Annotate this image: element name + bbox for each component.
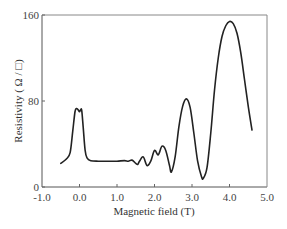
y-tick-label: 0 [34, 181, 40, 193]
y-tick-label: 80 [28, 95, 40, 107]
x-tick-label: 4.0 [223, 191, 237, 203]
x-tick-label: 1.0 [110, 191, 124, 203]
resistivity-curve [61, 21, 252, 179]
y-axis-label: Resistivity ( Ω / □) [12, 59, 25, 143]
x-tick-label: 2.0 [148, 191, 162, 203]
x-tick-label: 0.0 [73, 191, 87, 203]
chart: -1.00.01.02.03.04.05.0 080160 Magnetic f… [0, 0, 287, 229]
x-tick-label: 5.0 [260, 191, 274, 203]
plot-frame [42, 15, 267, 187]
y-tick-label: 160 [23, 9, 40, 21]
x-axis-label: Magnetic field (T) [113, 205, 195, 218]
x-tick-label: 3.0 [185, 191, 199, 203]
